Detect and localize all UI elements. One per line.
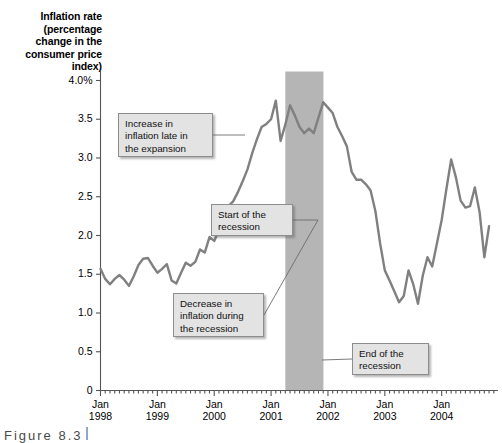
x-tick-year: 2004 <box>430 410 453 422</box>
x-tick-year: 2001 <box>259 410 282 422</box>
x-tick-year: 1999 <box>146 410 169 422</box>
start-of-recession-annotation: Start of the recession <box>211 204 293 236</box>
x-tick-month: Jan <box>206 398 223 410</box>
decrease-in-inflation-annotation: Decrease in inflation during the recessi… <box>173 293 264 337</box>
y-axis-tick-label: 0.5 <box>33 345 93 357</box>
x-axis-tick-label: Jan1998 <box>71 398 131 423</box>
end-of-recession-annotation-leader <box>322 359 352 360</box>
y-axis-tick-label: 1.5 <box>33 267 93 279</box>
x-tick-month: Jan <box>376 398 393 410</box>
end-of-recession-annotation: End of the recession <box>352 343 429 375</box>
x-tick-month: Jan <box>319 398 336 410</box>
figure-caption: Figure 8.3 <box>4 428 83 443</box>
x-axis-tick-label: Jan2000 <box>184 398 244 423</box>
y-axis-tick-label: 2.5 <box>33 190 93 202</box>
x-tick-month: Jan <box>92 398 109 410</box>
y-axis-tick-label: 3.5 <box>33 112 93 124</box>
x-tick-year: 2003 <box>373 410 396 422</box>
x-tick-month: Jan <box>263 398 280 410</box>
x-tick-year: 1998 <box>89 410 112 422</box>
caption-rule <box>86 427 88 440</box>
y-axis-tick-label: 1.0 <box>33 306 93 318</box>
x-tick-year: 2002 <box>316 410 339 422</box>
y-axis-tick-label: 0 <box>33 384 93 396</box>
y-axis-tick-label: 4.0% <box>33 74 93 86</box>
x-axis-tick-label: Jan2002 <box>298 398 358 423</box>
x-axis-tick-label: Jan1999 <box>127 398 187 423</box>
x-tick-year: 2000 <box>203 410 226 422</box>
increase-in-inflation-annotation: Increase in inflation late in the expans… <box>118 113 213 157</box>
x-axis-tick-label: Jan2001 <box>241 398 301 423</box>
x-tick-month: Jan <box>433 398 450 410</box>
y-axis-tick-label: 3.0 <box>33 151 93 163</box>
x-axis-tick-label: Jan2004 <box>412 398 472 423</box>
x-axis-tick-label: Jan2003 <box>355 398 415 423</box>
x-tick-month: Jan <box>149 398 166 410</box>
y-axis-tick-label: 2.0 <box>33 229 93 241</box>
